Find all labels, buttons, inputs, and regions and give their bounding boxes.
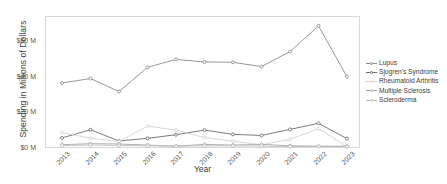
data-point [289, 50, 292, 53]
data-point [203, 144, 206, 147]
data-point [89, 77, 92, 80]
legend-item-multiple-sclerosis[interactable]: Multiple Sclerosis [366, 87, 447, 96]
legend-item-sjogren-s-syndrome[interactable]: Sjogren's Syndrome [366, 68, 447, 77]
legend-item-rheumatoid-arthritis[interactable]: Rheumatoid Arthritis [366, 77, 447, 86]
data-point [203, 129, 206, 132]
data-point [89, 128, 92, 131]
data-point [289, 128, 292, 131]
legend-marker-icon [366, 96, 377, 105]
data-point [346, 75, 349, 78]
data-point [346, 137, 349, 140]
data-point [203, 60, 206, 63]
series-lupus [61, 24, 349, 93]
data-point [118, 144, 121, 147]
data-point [289, 145, 292, 148]
data-point [61, 144, 64, 147]
data-point [175, 129, 178, 132]
data-point [232, 144, 235, 147]
data-point [61, 82, 64, 85]
legend-label: Sjogren's Syndrome [377, 68, 438, 77]
legend-label: Multiple Sclerosis [377, 87, 430, 96]
data-point [317, 127, 320, 130]
data-point [146, 137, 149, 140]
data-point [260, 145, 263, 148]
data-point [89, 144, 92, 147]
legend-item-lupus[interactable]: Lupus [366, 59, 447, 68]
data-point [317, 145, 320, 148]
data-point [232, 133, 235, 136]
plot-area [45, 16, 360, 148]
data-point [260, 134, 263, 137]
data-point [175, 133, 178, 136]
series-line [62, 26, 347, 92]
data-point [146, 66, 149, 69]
data-point [232, 140, 235, 143]
data-point [289, 138, 292, 141]
legend-item-scleroderma[interactable]: Scleroderma [366, 96, 447, 105]
legend-marker-icon [366, 87, 377, 96]
data-point [146, 125, 149, 128]
data-point [61, 131, 64, 134]
data-point [89, 137, 92, 140]
legend-label: Rheumatoid Arthritis [377, 77, 438, 86]
data-point [317, 24, 320, 27]
legend-label: Scleroderma [377, 96, 416, 105]
data-point [346, 145, 349, 148]
legend-label: Lupus [377, 59, 397, 68]
data-point [175, 145, 178, 148]
data-point [61, 136, 64, 139]
legend-marker-icon [366, 68, 377, 77]
data-point [146, 144, 149, 147]
x-axis-title: Year [45, 164, 360, 174]
chart-figure: Spending in Millions of Dollars $0 M$20 … [0, 0, 447, 184]
data-point [203, 136, 206, 139]
data-point [260, 65, 263, 68]
legend-marker-icon [366, 59, 377, 68]
legend-marker-icon [366, 77, 377, 86]
data-point [317, 122, 320, 125]
data-point [175, 58, 178, 61]
series-canvas [46, 17, 361, 149]
data-point [118, 90, 121, 93]
legend: LupusSjogren's SyndromeRheumatoid Arthri… [366, 59, 447, 105]
data-point [232, 61, 235, 64]
